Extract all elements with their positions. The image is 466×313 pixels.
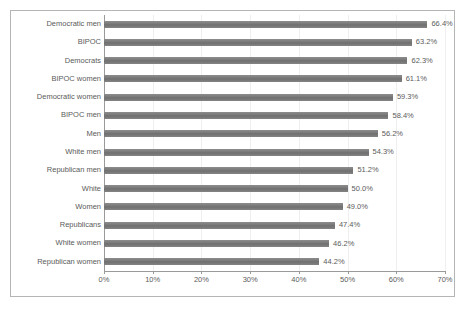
bar-row[interactable]: 44.2% bbox=[11, 253, 454, 271]
x-tick-label: 60% bbox=[389, 275, 404, 284]
bar[interactable] bbox=[104, 112, 388, 119]
x-tick-mark bbox=[250, 271, 251, 274]
bar-row[interactable]: 56.2% bbox=[11, 125, 454, 143]
bar[interactable] bbox=[104, 203, 343, 210]
x-tick-label: 50% bbox=[340, 275, 355, 284]
bar-value-label: 46.2% bbox=[333, 237, 354, 251]
bar[interactable] bbox=[104, 75, 402, 82]
x-tick-label: 20% bbox=[194, 275, 209, 284]
bar-value-label: 66.4% bbox=[431, 17, 452, 31]
x-tick-mark bbox=[153, 271, 154, 274]
bar-value-label: 44.2% bbox=[323, 255, 344, 269]
bar-row[interactable]: 58.4% bbox=[11, 106, 454, 124]
bar[interactable] bbox=[104, 167, 353, 174]
bar[interactable] bbox=[104, 39, 412, 46]
bar-value-label: 59.3% bbox=[397, 90, 418, 104]
x-tick-mark bbox=[299, 271, 300, 274]
bar-value-label: 62.3% bbox=[411, 54, 432, 68]
x-tick-mark bbox=[445, 271, 446, 274]
bar[interactable] bbox=[104, 130, 378, 137]
x-tick-label: 40% bbox=[291, 275, 306, 284]
bar-row[interactable]: 46.2% bbox=[11, 234, 454, 252]
bar[interactable] bbox=[104, 185, 348, 192]
chart-frame: Democratic menBIPOCDemocratsBIPOC womenD… bbox=[10, 10, 455, 297]
bar-row[interactable]: 50.0% bbox=[11, 180, 454, 198]
bar[interactable] bbox=[104, 94, 393, 101]
bar[interactable] bbox=[104, 57, 407, 64]
bar[interactable] bbox=[104, 21, 427, 28]
x-tick-label: 0% bbox=[99, 275, 110, 284]
bar[interactable] bbox=[104, 222, 335, 229]
bar-value-label: 61.1% bbox=[406, 72, 427, 86]
bar-value-label: 58.4% bbox=[392, 109, 413, 123]
x-tick-mark bbox=[104, 271, 105, 274]
bar-row[interactable]: 61.1% bbox=[11, 70, 454, 88]
x-tick-mark bbox=[348, 271, 349, 274]
x-tick-label: 30% bbox=[243, 275, 258, 284]
x-tick-mark bbox=[396, 271, 397, 274]
bar[interactable] bbox=[104, 240, 329, 247]
x-tick-label: 70% bbox=[437, 275, 452, 284]
bar-row[interactable]: 59.3% bbox=[11, 88, 454, 106]
bar-row[interactable]: 54.3% bbox=[11, 143, 454, 161]
bar-value-label: 54.3% bbox=[373, 145, 394, 159]
x-tick-label: 10% bbox=[145, 275, 160, 284]
bar-value-label: 63.2% bbox=[416, 35, 437, 49]
x-axis-line bbox=[104, 271, 446, 272]
bar-row[interactable]: 66.4% bbox=[11, 15, 454, 33]
bar-row[interactable]: 47.4% bbox=[11, 216, 454, 234]
bar[interactable] bbox=[104, 149, 369, 156]
x-tick-mark bbox=[201, 271, 202, 274]
bar-row[interactable]: 49.0% bbox=[11, 198, 454, 216]
bar-value-label: 47.4% bbox=[339, 218, 360, 232]
bar-value-label: 51.2% bbox=[357, 163, 378, 177]
bar[interactable] bbox=[104, 258, 319, 265]
bar-value-label: 49.0% bbox=[347, 200, 368, 214]
bar-value-label: 50.0% bbox=[352, 182, 373, 196]
bar-row[interactable]: 62.3% bbox=[11, 52, 454, 70]
bar-row[interactable]: 63.2% bbox=[11, 33, 454, 51]
bar-row[interactable]: 51.2% bbox=[11, 161, 454, 179]
bar-value-label: 56.2% bbox=[382, 127, 403, 141]
